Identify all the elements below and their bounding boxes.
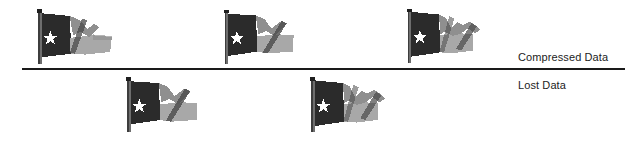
flag-icon — [401, 6, 487, 66]
flag-icon — [218, 8, 304, 66]
flag-icon — [30, 8, 120, 66]
horizontal-divider-line — [22, 68, 625, 70]
flag-icon — [120, 76, 208, 134]
figure-canvas: Compressed Data Lost Data — [0, 0, 641, 143]
flag-icon — [303, 76, 393, 134]
compressed-data-label: Compressed Data — [518, 51, 608, 64]
lost-data-label: Lost Data — [518, 79, 566, 92]
